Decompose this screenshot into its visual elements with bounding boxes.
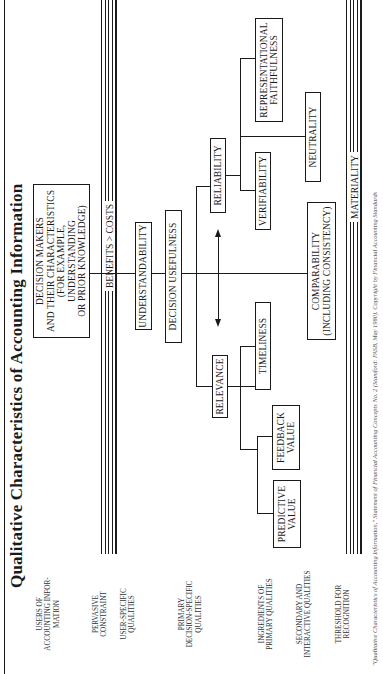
connector: [240, 386, 255, 387]
arrow-right-icon: [215, 229, 221, 237]
diagram-title: Qualitative Characteristics of Accountin…: [7, 184, 27, 588]
decision-usefulness-box: DECISION USEFULNESS: [165, 210, 182, 343]
feedback-value-box: FEEDBACK VALUE: [272, 405, 300, 470]
connector: [196, 186, 210, 187]
materiality-bar: MATERIALITY: [346, 0, 363, 554]
comparability-box: COMPARABILITY (INCLUDING CONSISTENCY): [307, 202, 336, 340]
representational-faithfulness-box: REPRESENTATIONAL FAITHFULNESS: [255, 18, 283, 122]
connector: [182, 273, 196, 274]
relevance-box: RELEVANCE: [212, 355, 228, 418]
connector: [240, 136, 305, 137]
decision-makers-box: DECISION MAKERS AND THEIR CHARACTERISTIC…: [33, 184, 90, 338]
label-user-specific: USER-SPECIFIC QUALITIES: [120, 559, 137, 669]
arrow-left-icon: [215, 319, 221, 327]
label-primary-decision-specific: PRIMARY DECISION-SPECIFIC QUALITIES: [178, 559, 203, 669]
connector: [240, 59, 241, 191]
connector: [152, 273, 165, 274]
connector: [240, 190, 255, 191]
connector: [240, 346, 255, 347]
connector: [225, 175, 240, 176]
connector: [196, 187, 197, 387]
label-threshold: THRESHOLD FOR RECOGNITION: [335, 559, 352, 669]
source-caption: "Qualitative Characteristics of Accounti…: [371, 192, 378, 666]
label-secondary: SECONDARY AND INTERACTIVE QUALITIES: [296, 559, 313, 669]
timeliness-box: TIMELINESS: [255, 302, 271, 390]
diagram-page: Qualitative Characteristics of Accountin…: [0, 0, 383, 674]
materiality-label: MATERIALITY: [350, 152, 360, 222]
connector: [240, 58, 255, 59]
connector: [240, 387, 241, 450]
connector: [257, 436, 272, 437]
tradeoff-arrow-line: [218, 233, 219, 321]
reliability-box: RELIABILITY: [210, 138, 226, 213]
label-users: USERS OF ACCOUNTING INFOR- MATION: [36, 559, 61, 669]
neutrality-box: NEUTRALITY: [305, 92, 321, 182]
connector: [196, 386, 212, 387]
label-ingredients: INGREDIENTS OF PRIMARY QUALITIES: [258, 559, 275, 669]
connector: [196, 273, 307, 274]
connector: [228, 386, 240, 387]
benefits-costs-label: BENEFITS > COSTS: [105, 201, 115, 291]
benefits-costs-bar: BENEFITS > COSTS: [101, 0, 118, 554]
verifiability-box: VERIFIABILITY: [255, 152, 271, 230]
label-pervasive-constraint: PERVASIVE CONSTRAINT: [92, 559, 109, 669]
connector: [257, 437, 258, 514]
connector: [257, 513, 273, 514]
top-rule: [4, 0, 5, 674]
predictive-value-box: PREDICTIVE VALUE: [273, 480, 301, 548]
bar-lines: [346, 0, 363, 554]
connector: [240, 449, 257, 450]
understandability-box: UNDERSTANDABILITY: [135, 222, 152, 330]
connector: [240, 347, 241, 387]
connector: [90, 273, 135, 274]
